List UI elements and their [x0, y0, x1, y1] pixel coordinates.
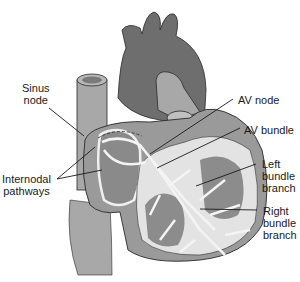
label-av-node: AV node: [238, 94, 279, 106]
right-ventricle-muscle: [145, 194, 185, 247]
label-left-bundle-branch: Left bundle branch: [262, 158, 296, 194]
label-right-bundle-branch: Right bundle branch: [263, 205, 297, 241]
label-sinus-node: Sinus node: [22, 82, 50, 106]
heart-illustration: [0, 0, 300, 282]
label-internodal-pathways: Internodal pathways: [2, 173, 51, 197]
label-av-bundle: AV bundle: [244, 124, 294, 136]
